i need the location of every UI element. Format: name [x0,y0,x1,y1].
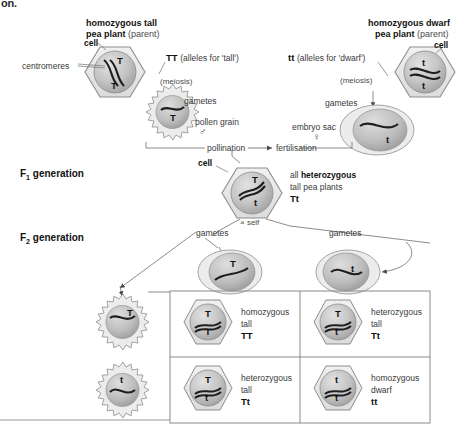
offspring-2-allele-1: T [335,308,341,319]
parent-right-allele-1: t [422,57,425,68]
offspring-2-desc-line2: tall [371,318,382,330]
embryo-sac-allele: t [386,134,389,145]
parent-right-gametes-label: gametes [325,98,358,108]
clipped-caption: on. [1,0,17,9]
f1-genotype: Tt [290,193,299,204]
parent-right-cell-label: cell [434,40,448,50]
f2-gametes-label-right: gametes [329,228,362,238]
f1-allele-2: t [254,197,257,208]
offspring-cell-3 [184,366,232,410]
parent-left-meiosis-label: (meiosis) [160,77,192,86]
parent-right-genotype-note: (alleles for 'dwarf') [297,53,365,63]
offspring-1-desc-line2: tall [241,318,252,330]
offspring-3-desc-line2: tall [241,384,252,396]
embryo-sac-gamete [340,105,414,155]
parent-left-genotype-note: (alleles for 'tall') [180,53,239,63]
f1-desc-thin: all [290,170,301,180]
f1-generation-sub: 1 [26,174,30,181]
offspring-cell-4 [314,366,362,410]
parent-right-title-parent: (parent) [417,29,449,39]
diagram-canvas: on. homozygous tall pea plant (parent) c… [0,0,459,429]
male-symbol-icon: ♂ [199,126,207,138]
offspring-3-genotype: Tt [241,396,250,407]
parent-left-title-line1: homozygous tall [86,18,157,29]
offspring-4-allele-2: t [335,392,338,403]
f1-generation-word: generation [33,168,84,179]
pollination-label: pollination [207,143,245,153]
offspring-3-desc-line1: heterozygous [241,372,292,384]
offspring-2-genotype: Tt [371,330,380,341]
f2-gametes-label-left: gametes [196,228,229,238]
offspring-2-allele-2: t [335,326,338,337]
f2-generation-sub: 2 [26,238,30,245]
parent-right-title-line2: pea plant [375,29,415,39]
parent-left-allele-1: T [117,55,123,66]
offspring-3-allele-2: t [205,392,208,403]
f2-top-gamete-allele-1: T [230,258,236,269]
offspring-4-allele-1: t [335,374,338,385]
f2-side-gamete-t [96,362,149,418]
fertilisation-label: fertilisation [276,143,317,153]
f1-desc-bold: heterozygous [301,170,356,180]
parent-right-title-line1: homozygous dwarf [368,18,450,29]
f2-side-gamete-allele-2: t [120,374,123,385]
f2-top-gamete-allele-2: t [351,263,354,274]
parent-left-gametes-label: gametes [184,96,217,106]
female-symbol-icon: ♀ [313,131,321,143]
f2-top-gamete-t [316,250,380,294]
offspring-4-desc-line1: homozygous [371,372,419,384]
offspring-1-allele-2: T [205,326,211,337]
parent-right-allele-2: t [422,80,425,91]
f1-cell-label: cell [198,158,212,168]
f2-side-gamete-allele-1: T [127,307,133,318]
f1-desc-line2: tall pea plants [290,182,342,192]
parent-left-allele-2: T [111,80,117,91]
offspring-1-genotype: TT [241,330,253,341]
f1-allele-1: T [252,174,258,185]
offspring-cell-2 [314,300,362,344]
offspring-2-desc-line1: heterozygous [371,306,422,318]
f2-side-gamete-T [96,294,149,350]
offspring-4-genotype: tt [371,396,377,407]
offspring-3-allele-1: T [205,374,211,385]
parent-right-genotype: tt [288,52,294,63]
parent-right-meiosis-label: (meiosis) [340,76,372,85]
parent-left-cell-label: cell [84,38,98,48]
f2-top-gamete-T [198,250,262,294]
f2-generation-word: generation [33,232,84,243]
offspring-1-desc-line1: homozygous [241,306,289,318]
offspring-4-desc-line2: dwarf [371,384,392,396]
offspring-1-allele-1: T [205,308,211,319]
centromeres-label: centromeres [22,61,69,71]
pollen-grain-allele: T [170,112,176,123]
parent-left-title-parent: (parent) [128,29,160,39]
parent-left-genotype: TT [166,52,178,63]
f1-self-cross-label: × self [240,218,259,227]
offspring-cell-1 [184,300,232,344]
